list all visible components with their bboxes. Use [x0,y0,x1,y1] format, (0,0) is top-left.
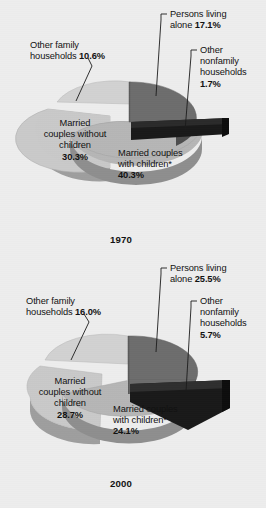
label-text: Married couples [118,148,183,158]
label-text: Other family [30,40,79,50]
pie-chart-1970: Persons living alone 17.1% Other nonfami… [0,0,266,254]
year-label-2000: 2000 [110,478,132,489]
label-value: 10.6% [79,51,105,61]
label-text: households [30,51,77,61]
label-text: Married [55,376,86,386]
label-text: Other family [26,296,75,306]
label-text: households [200,318,247,328]
label-1970-persons-alone: Persons living alone 17.1% [170,9,264,31]
label-text: nonfamily [200,307,239,317]
label-text: nonfamily [200,56,239,66]
label-2000-married-without-children: Married couples without children 28.7% [16,376,124,421]
label-2000-other-family: Other family households 16.0% [26,296,152,318]
year-label-1970: 1970 [110,234,132,245]
label-text: with children* [118,159,172,169]
label-value: 40.3% [118,170,144,180]
figure-page: Persons living alone 17.1% Other nonfami… [0,0,266,508]
label-value: 25.5% [195,274,221,284]
label-2000-other-nonfamily: Other nonfamily households 5.7% [200,296,266,341]
label-value: 5.7% [200,330,221,340]
label-text: households [200,67,247,77]
label-text: alone [170,20,192,30]
label-text: couples without [39,387,102,397]
label-1970-other-family: Other family households 10.6% [30,40,150,62]
label-text: couples without [44,129,107,139]
label-text: Persons living [170,263,226,273]
label-1970-married-without-children: Married couples without children 30.3% [22,118,128,163]
label-value: 17.1% [195,20,221,30]
label-text: Other [200,45,223,55]
label-text: with children* [113,415,167,425]
label-text: children [59,140,91,150]
label-1970-married-with-children: Married couples with children* 40.3% [118,148,222,182]
label-value: 24.1% [113,426,139,436]
pie-chart-2000: Persons living alone 25.5% Other nonfami… [0,254,266,508]
label-1970-other-nonfamily: Other nonfamily households 1.7% [200,45,266,90]
label-text: Married couples [113,404,178,414]
label-text: Married [60,118,91,128]
label-2000-married-with-children: Married couples with children* 24.1% [113,404,217,438]
label-text: households [26,307,73,317]
label-value: 28.7% [57,410,83,420]
label-text: Persons living [170,9,226,19]
label-text: children [54,398,86,408]
label-value: 30.3% [62,152,88,162]
label-text: Other [200,296,223,306]
label-value: 1.7% [200,79,221,89]
label-text: alone [170,274,192,284]
label-2000-persons-alone: Persons living alone 25.5% [170,263,264,285]
label-value: 16.0% [75,307,101,317]
